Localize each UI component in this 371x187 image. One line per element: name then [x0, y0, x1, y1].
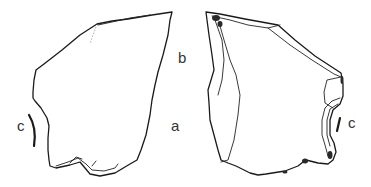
artifact-drawing	[0, 0, 371, 187]
right-view-retouch-base	[283, 171, 288, 174]
right-view-retouch-top	[212, 15, 220, 21]
right-view-retouch-top-2	[218, 21, 223, 27]
left-view-c-arc-mark	[29, 115, 35, 146]
left-view-outline	[33, 12, 172, 176]
right-view-facet-right	[324, 77, 341, 108]
label-a: a	[171, 118, 179, 133]
right-view-c-mark	[337, 118, 340, 131]
left-view-ventral	[29, 12, 172, 176]
left-view-crack	[90, 27, 96, 44]
label-c-left: c	[17, 118, 25, 133]
right-view-ridge-diag	[268, 28, 341, 77]
right-view-retouch-notch	[328, 151, 333, 159]
artifact-figure: b a c c	[0, 0, 371, 187]
label-b: b	[178, 50, 186, 65]
left-view-bottom-ridge	[56, 158, 118, 171]
right-view-retouch-bottom	[302, 159, 308, 164]
right-view-dorsal	[206, 12, 344, 175]
right-view-ridge-top	[212, 16, 280, 28]
label-c-right: c	[348, 115, 356, 130]
right-view-outline	[206, 12, 343, 175]
left-view-bottom-tick	[92, 161, 96, 166]
right-view-retouch-edge	[341, 76, 344, 84]
right-view-ridge-inner	[215, 20, 224, 95]
